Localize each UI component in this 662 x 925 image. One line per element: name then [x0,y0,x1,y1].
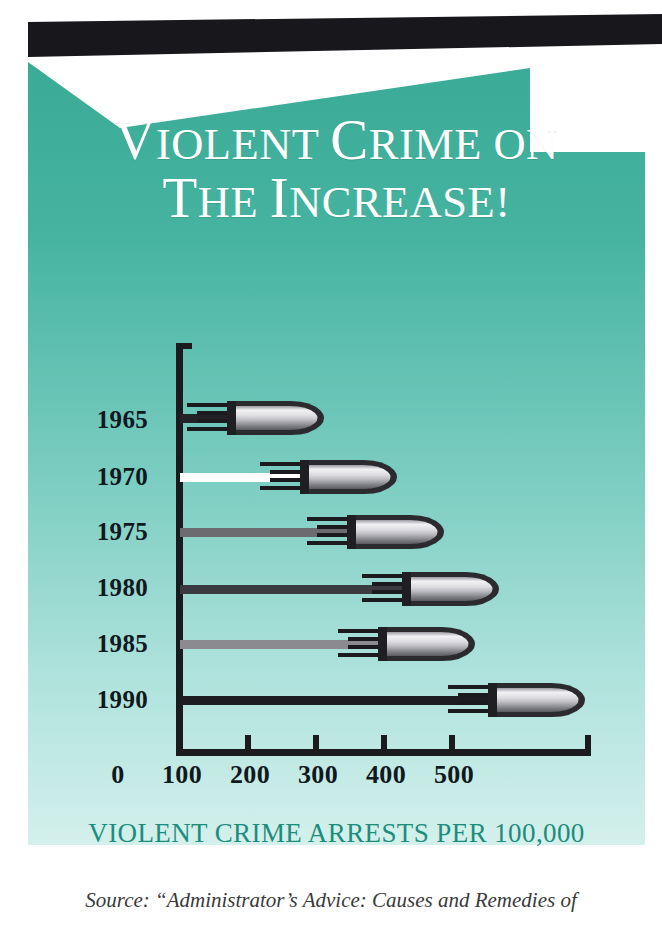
page-title: VIOLENT CRIME ON THE INCREASE! [28,112,645,227]
y-axis-label-1965: 1965 [38,406,148,434]
bar-1975 [180,515,444,549]
poster-content: VIOLENT CRIME ON THE INCREASE! [0,0,662,925]
bar-1965 [180,401,324,435]
bar-1980 [180,572,499,606]
title-line-1: VIOLENT CRIME ON [28,112,645,168]
y-axis-label-1980: 1980 [38,574,148,602]
title-line-2: THE INCREASE! [28,170,645,226]
y-axis-label-1970: 1970 [38,463,148,491]
bar-1990 [180,683,585,717]
chart-caption: VIOLENT CRIME ARRESTS PER 100,000 [28,818,645,849]
y-axis-label-1985: 1985 [38,630,148,658]
y-axis-label-1990: 1990 [38,686,148,714]
poster-page: VIOLENT CRIME ON THE INCREASE! [0,0,662,925]
source-line: Source: “Administrator’s Advice: Causes … [0,888,662,913]
x-axis-tick-500: 500 [414,760,494,790]
bar-1970 [180,460,397,494]
bullet-bar-chart [0,330,662,790]
y-axis-label-1975: 1975 [38,518,148,546]
bar-1985 [180,627,475,661]
